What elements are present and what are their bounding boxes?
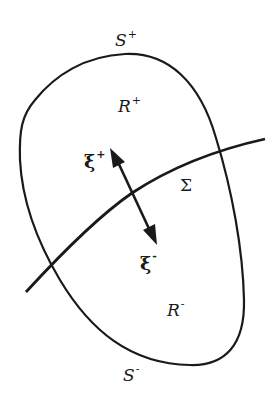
arrow-head-up-icon <box>110 148 125 168</box>
diagram-canvas: S+ R+ ξ+ Σ ξ- R- S- <box>0 0 279 405</box>
label-r-plus-sup: + <box>132 94 141 107</box>
label-s-minus: S- <box>123 367 139 384</box>
label-sigma: Σ <box>180 177 192 194</box>
label-xi-plus-base: ξ <box>84 150 95 172</box>
label-xi-minus: ξ- <box>140 254 157 273</box>
label-sigma-base: Σ <box>180 175 192 195</box>
label-xi-minus-base: ξ <box>140 252 151 274</box>
label-s-minus-sup: - <box>136 363 140 376</box>
arrow-head-down-icon <box>143 224 157 245</box>
diagram-svg <box>0 0 279 405</box>
label-xi-plus-sup: + <box>96 148 105 161</box>
label-s-plus: S+ <box>115 32 137 49</box>
label-xi-minus-sup: - <box>152 250 157 263</box>
label-r-minus: R- <box>167 302 185 319</box>
label-r-minus-base: R <box>167 300 180 320</box>
normal-arrow-shaft <box>117 160 151 233</box>
label-s-plus-sup: + <box>128 28 137 41</box>
label-r-plus-base: R <box>118 96 131 116</box>
label-r-plus: R+ <box>118 98 141 115</box>
label-xi-plus: ξ+ <box>84 152 105 171</box>
label-s-plus-base: S <box>115 30 127 50</box>
label-s-minus-base: S <box>123 365 135 385</box>
label-r-minus-sup: - <box>181 298 185 311</box>
